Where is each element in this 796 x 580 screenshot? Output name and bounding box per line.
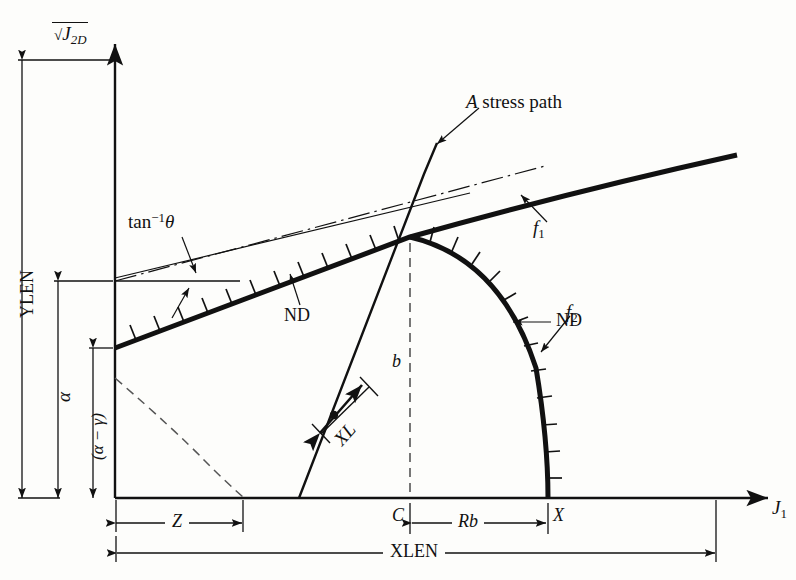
- point-c-label: C: [392, 506, 404, 524]
- alpha-minus-gamma-label: (α − γ): [89, 413, 106, 460]
- nd-upper-label: ND: [556, 311, 582, 329]
- xlen-label: XLEN: [383, 542, 445, 560]
- figure-canvas: √J2D J1 YLEN α (α − γ) Z Rb XLEN C X b X…: [0, 0, 796, 580]
- stress-path-text: stress path: [482, 91, 562, 112]
- stress-path-line: [299, 143, 437, 498]
- dash-dot-reference-line: [115, 166, 545, 281]
- f2-cap-curve: [410, 237, 548, 498]
- nd-lower-label: ND: [284, 306, 310, 324]
- f1-label: f1: [533, 218, 545, 241]
- x-axis-label-subscript: 1: [780, 506, 786, 521]
- z-label: Z: [165, 512, 189, 530]
- angle-label: tan−1θ: [128, 212, 174, 231]
- x-axis-label: J1: [772, 498, 787, 521]
- axis-lines: [115, 44, 768, 498]
- y-axis-label-symbol: J: [62, 23, 70, 44]
- point-b-label: b: [392, 352, 401, 370]
- y-axis-label-subscript: 2D: [71, 32, 87, 47]
- angle-theta-symbol: θ: [165, 211, 174, 232]
- angle-leader-upper: [182, 237, 196, 273]
- diagram-svg: [0, 0, 796, 580]
- initial-yield-arc: [115, 378, 243, 497]
- rb-label: Rb: [452, 512, 484, 530]
- stress-path-leader: [437, 108, 479, 144]
- f2-hatch-ticks: [430, 227, 562, 478]
- point-x-label: X: [553, 506, 564, 524]
- angle-exponent: −1: [151, 210, 165, 225]
- f1-hatch-ticks: [130, 226, 399, 340]
- alpha-label: α: [54, 392, 73, 402]
- ylen-label: YLEN: [18, 270, 36, 318]
- stress-path-label: A stress path: [466, 92, 562, 111]
- f1-yield-curve: [115, 155, 737, 348]
- stress-path-point-label: A: [466, 91, 478, 112]
- y-axis-label: √J2D: [52, 22, 88, 47]
- angle-tan-text: tan: [128, 211, 151, 232]
